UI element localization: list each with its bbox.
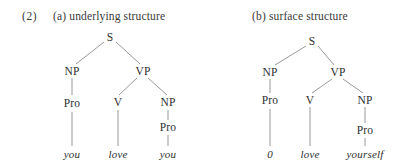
branch-b-s-np — [275, 46, 306, 65]
tree-b-node-v: V — [304, 94, 316, 106]
tree-b-node-np-object: NP — [356, 94, 374, 106]
tree-b-node-s: S — [307, 35, 317, 47]
tree-a-node-s: S — [105, 31, 115, 43]
tree-branch-lines — [0, 0, 404, 165]
tree-b-node-pro-subject: Pro — [260, 94, 280, 106]
tree-a-node-np-object: NP — [159, 96, 177, 108]
tree-a-node-v: V — [112, 96, 124, 108]
caption-underlying-structure: (a) underlying structure — [53, 10, 165, 22]
tree-b-terminal-verb: love — [300, 148, 319, 160]
branch-a-s-vp — [116, 42, 140, 64]
tree-b-node-np-subject: NP — [261, 66, 279, 78]
tree-b-node-pro-object: Pro — [355, 124, 375, 136]
branch-b-s-vp — [318, 46, 334, 65]
tree-a-terminal-object: you — [160, 148, 176, 160]
branch-b-vp-v — [312, 79, 332, 93]
caption-surface-structure: (b) surface structure — [252, 10, 348, 22]
branch-a-s-np — [76, 42, 104, 64]
branch-a-vp-v — [119, 78, 137, 95]
branch-b-vp-np — [343, 79, 363, 93]
example-number: (2) — [22, 10, 37, 22]
tree-a-node-np-subject: NP — [63, 65, 81, 77]
tree-a-terminal-subject: you — [64, 148, 80, 160]
tree-a-terminal-verb: love — [108, 148, 127, 160]
tree-a-node-pro-subject: Pro — [62, 97, 82, 109]
syntax-tree-figure: (2) (a) underlying structure (b) surface… — [0, 0, 404, 165]
tree-b-node-vp: VP — [329, 66, 347, 78]
tree-b-terminal-object: yourself — [346, 148, 383, 160]
tree-b-terminal-subject: 0 — [267, 148, 273, 160]
tree-a-node-pro-object: Pro — [158, 121, 178, 133]
tree-a-node-vp: VP — [134, 65, 152, 77]
branch-a-vp-np — [148, 78, 167, 95]
